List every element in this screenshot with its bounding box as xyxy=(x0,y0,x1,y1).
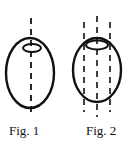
fig2-ellipsoid xyxy=(73,38,121,102)
fig2-caption: Fig. 2 xyxy=(86,124,116,138)
fig1-rotation-loop-icon xyxy=(23,44,41,52)
figure-2 xyxy=(73,16,121,117)
figure-1 xyxy=(6,18,54,116)
fig1-caption: Fig. 1 xyxy=(9,124,39,138)
diagram-canvas xyxy=(0,0,129,143)
fig1-ellipsoid xyxy=(6,38,54,108)
